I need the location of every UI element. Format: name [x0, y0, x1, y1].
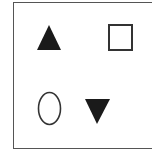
shapes-canvas	[0, 0, 152, 166]
filled-down-triangle-icon	[85, 99, 110, 124]
hollow-ellipse-icon	[39, 93, 61, 125]
hollow-square-icon	[109, 25, 132, 50]
filled-up-triangle-icon	[37, 25, 61, 50]
